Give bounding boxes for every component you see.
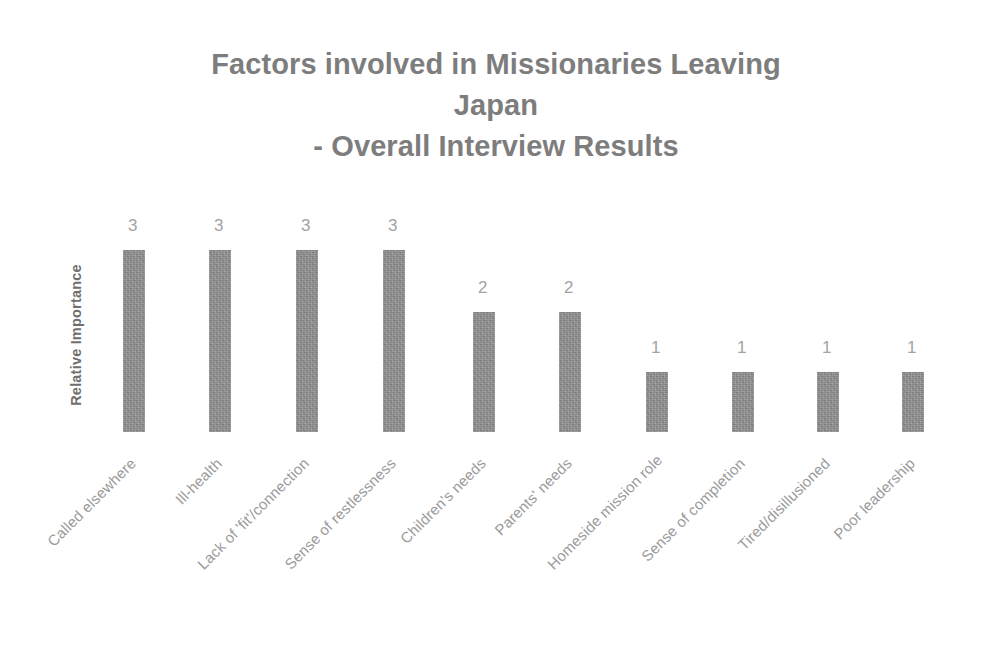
bar-value-label: 3 <box>103 216 163 236</box>
bar-value-label: 1 <box>626 338 686 358</box>
bar <box>123 250 145 432</box>
bar-value-label: 2 <box>539 278 599 298</box>
bar-value-label: 1 <box>712 338 772 358</box>
bar-value-label: 1 <box>797 338 857 358</box>
bar <box>732 372 754 432</box>
bar <box>383 250 405 432</box>
bar-chart-plot-area: Relative Importance 3 Called elsewhere 3… <box>0 0 992 650</box>
bar <box>902 372 924 432</box>
bar <box>296 250 318 432</box>
bar <box>646 372 668 432</box>
bar-value-label: 3 <box>363 216 423 236</box>
bar-value-label: 1 <box>882 338 942 358</box>
bar-value-label: 3 <box>276 216 336 236</box>
bar-value-label: 3 <box>189 216 249 236</box>
bar <box>209 250 231 432</box>
bar-value-label: 2 <box>453 278 513 298</box>
y-axis-title: Relative Importance <box>68 264 84 406</box>
bar <box>817 372 839 432</box>
bar <box>559 312 581 432</box>
bar <box>473 312 495 432</box>
